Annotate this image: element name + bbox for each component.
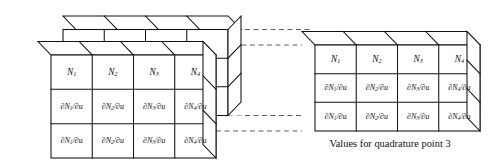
right-cell-r3c4: ∂N4/∂u (448, 112, 470, 121)
front-cell-r3c1: ∂N1/∂u (60, 136, 82, 145)
figure-caption: Values for quadrature point 3 (329, 138, 450, 149)
front-cell-r2c2: ∂N2/∂u (102, 102, 124, 111)
right-cell-r2c4: ∂N4/∂u (448, 83, 470, 92)
front-cell-r2c1: ∂N1/∂u (60, 102, 82, 111)
right-cell-r2c1: ∂N1/∂u (324, 83, 346, 92)
left-front-box: N1 N2 N3 N4 ∂N1/∂u ∂N2/∂u ∂N3/∂u ∂N4/∂u … (38, 42, 216, 159)
right-cell-r3c2: ∂N2/∂u (366, 112, 388, 121)
right-cell-r2c3: ∂N3/∂u (407, 83, 429, 92)
front-cell-r3c2: ∂N2/∂u (102, 136, 124, 145)
right-cell-r3c1: ∂N1/∂u (324, 112, 346, 121)
back-box-right-face (228, 16, 241, 116)
right-cell-r3c3: ∂N3/∂u (407, 112, 429, 121)
shape-function-array-diagram: N1 N2 N3 N4 ∂N1/∂u ∂N2/∂u ∂N3/∂u ∂N4/∂u … (0, 0, 500, 167)
figure-root: N1 N2 N3 N4 ∂N1/∂u ∂N2/∂u ∂N3/∂u ∂N4/∂u … (0, 0, 500, 167)
right-cell-r2c2: ∂N2/∂u (366, 83, 388, 92)
front-cell-r2c4: ∂N4/∂u (184, 102, 206, 111)
front-cell-r3c4: ∂N4/∂u (184, 136, 206, 145)
front-cell-r3c3: ∂N3/∂u (143, 136, 165, 145)
right-expanded-box: N1 N2 N3 N4 ∂N1/∂u ∂N2/∂u ∂N3/∂u ∂N4/∂u … (302, 32, 480, 132)
front-cell-r2c3: ∂N3/∂u (143, 102, 165, 111)
